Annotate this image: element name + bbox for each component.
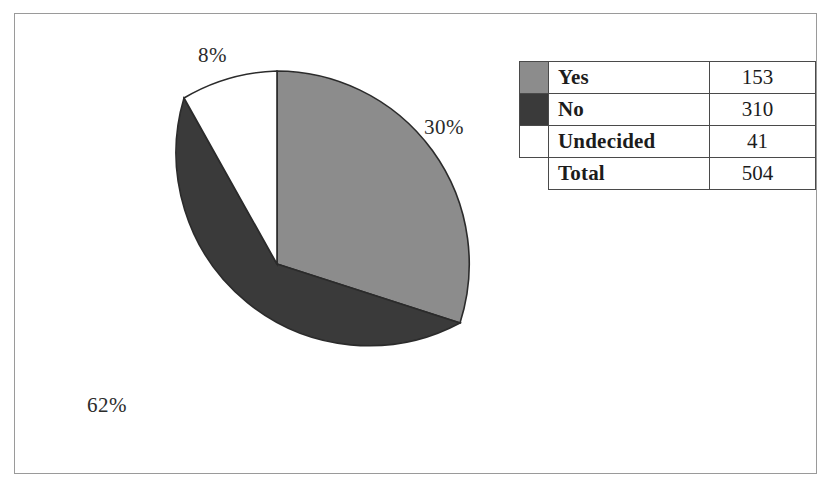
legend-value-yes: 153: [710, 62, 816, 94]
legend-value-total: 504: [710, 158, 816, 190]
legend-swatch-cell-total-empty: [520, 158, 549, 190]
legend-swatch-cell-yes: [520, 62, 549, 94]
pie-label-no-percent: 62%: [87, 393, 127, 418]
legend-row-undecided[interactable]: Undecided 41: [520, 126, 816, 158]
legend-row-yes[interactable]: Yes 153: [520, 62, 816, 94]
pie-chart: [71, 59, 471, 459]
legend-label-yes: Yes: [549, 62, 710, 94]
pie-label-yes-percent: 30%: [424, 115, 464, 140]
pie-chart-svg: [71, 59, 471, 459]
legend-value-undecided: 41: [710, 126, 816, 158]
legend-label-total: Total: [549, 158, 710, 190]
color-swatch-undecided: [520, 126, 548, 157]
legend-value-no: 310: [710, 94, 816, 126]
legend-label-undecided: Undecided: [549, 126, 710, 158]
legend-row-no[interactable]: No 310: [520, 94, 816, 126]
legend-row-total: Total 504: [520, 158, 816, 190]
pie-label-undecided-percent: 8%: [198, 43, 227, 68]
legend-table: Yes 153 No 310 Undecided 41 Total 5: [519, 61, 816, 190]
legend-swatch-cell-undecided: [520, 126, 549, 158]
figure-frame: 8% 30% 62% Yes 153 No 310: [14, 13, 817, 474]
legend-swatch-cell-no: [520, 94, 549, 126]
color-swatch-no: [520, 94, 548, 125]
color-swatch-yes: [520, 62, 548, 93]
legend-label-no: No: [549, 94, 710, 126]
